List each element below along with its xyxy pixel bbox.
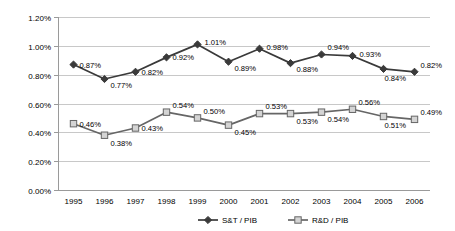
data-point-marker <box>163 54 170 61</box>
x-axis-label: 1999 <box>189 197 207 206</box>
data-point-marker <box>225 58 232 65</box>
data-point-label: 0.53% <box>266 102 288 111</box>
data-point-marker <box>194 115 200 121</box>
x-axis-label: 2001 <box>251 197 269 206</box>
y-axis-label: 1.20% <box>28 14 51 23</box>
x-axis-labels: 1995199619971998199920002001200220032004… <box>65 197 424 206</box>
data-point-label: 0.56% <box>359 98 381 107</box>
data-point-marker <box>287 60 294 67</box>
data-point-marker <box>411 116 417 122</box>
data-point-marker <box>318 109 324 115</box>
data-point-label: 0.49% <box>421 108 443 117</box>
y-axis-label: 0.80% <box>28 72 51 81</box>
data-point-label: 0.84% <box>385 74 407 83</box>
y-axis-labels: 0.00%0.20%0.40%0.60%0.80%1.00%1.20% <box>28 14 51 196</box>
data-point-marker <box>380 65 387 72</box>
legend-label: R&D / PIB <box>312 216 348 225</box>
data-point-marker <box>349 106 355 112</box>
data-point-marker <box>70 61 77 68</box>
y-axis-label: 0.00% <box>28 187 51 196</box>
data-point-marker <box>225 122 231 128</box>
data-point-marker <box>380 113 386 119</box>
data-point-marker <box>163 109 169 115</box>
x-axis-label: 1996 <box>96 197 114 206</box>
data-point-marker <box>318 51 325 58</box>
y-axis-label: 0.60% <box>28 101 51 110</box>
data-point-marker <box>256 110 262 116</box>
chart-legend: S&T / PIBR&D / PIB <box>198 216 348 225</box>
data-labels: 0.87%0.77%0.82%0.92%1.01%0.89%0.98%0.88%… <box>80 38 443 148</box>
x-axis-label: 1997 <box>127 197 145 206</box>
data-point-label: 0.87% <box>80 61 102 70</box>
data-point-label: 0.82% <box>421 61 443 70</box>
x-axis-label: 1998 <box>158 197 176 206</box>
data-point-marker <box>349 52 356 59</box>
line-chart: 0.00%0.20%0.40%0.60%0.80%1.00%1.20% 1995… <box>0 0 455 231</box>
data-point-marker <box>295 217 301 223</box>
data-point-label: 0.54% <box>328 115 350 124</box>
data-point-label: 0.45% <box>235 128 257 137</box>
data-point-label: 0.38% <box>111 139 133 148</box>
data-point-label: 0.98% <box>267 43 289 52</box>
data-point-label: 0.53% <box>297 117 319 126</box>
data-point-marker <box>287 110 293 116</box>
x-axis-label: 2005 <box>375 197 393 206</box>
data-point-marker <box>101 132 107 138</box>
data-point-label: 0.94% <box>328 43 350 52</box>
y-axis-label: 1.00% <box>28 43 51 52</box>
data-point-label: 0.51% <box>385 121 407 130</box>
data-point-label: 0.82% <box>142 68 164 77</box>
data-point-label: 0.43% <box>142 124 164 133</box>
data-point-label: 0.54% <box>173 101 195 110</box>
y-axis-label: 0.40% <box>28 129 51 138</box>
data-point-label: 0.92% <box>173 53 195 62</box>
y-axis-label: 0.20% <box>28 158 51 167</box>
data-point-label: 0.46% <box>80 120 102 129</box>
legend-label: S&T / PIB <box>222 216 257 225</box>
x-axis-label: 2003 <box>313 197 331 206</box>
data-point-marker <box>70 120 76 126</box>
chart-container: 0.00%0.20%0.40%0.60%0.80%1.00%1.20% 1995… <box>0 0 455 231</box>
data-point-label: 0.77% <box>111 81 133 90</box>
data-point-label: 0.88% <box>297 65 319 74</box>
data-point-marker <box>101 75 108 82</box>
x-axis-label: 1995 <box>65 197 83 206</box>
data-point-label: 0.89% <box>235 64 257 73</box>
data-point-label: 0.50% <box>204 107 226 116</box>
data-point-label: 0.93% <box>360 50 382 59</box>
data-point-marker <box>132 68 139 75</box>
data-point-marker <box>132 125 138 131</box>
x-axis-label: 2004 <box>344 197 362 206</box>
y-axis-ticks <box>54 18 58 191</box>
x-axis-label: 2000 <box>220 197 238 206</box>
x-axis-label: 2006 <box>406 197 424 206</box>
x-axis-label: 2002 <box>282 197 300 206</box>
data-point-label: 1.01% <box>205 38 227 47</box>
data-point-marker <box>411 68 418 75</box>
data-point-marker <box>204 216 211 223</box>
